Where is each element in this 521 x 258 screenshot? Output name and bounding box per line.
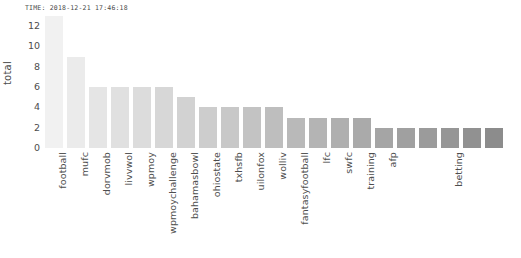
bar[interactable] bbox=[111, 87, 129, 148]
x-tick-label: wpmoychallenge bbox=[168, 152, 178, 234]
bar[interactable] bbox=[133, 87, 151, 148]
bar-chart: total 024681012 footballmufcdorvmoblivvw… bbox=[0, 0, 521, 258]
x-tick-label: dorvmob bbox=[102, 152, 112, 195]
x-tick-label: fantasyfootball bbox=[300, 152, 310, 225]
y-tick-label: 6 bbox=[26, 82, 40, 92]
y-tick-label: 2 bbox=[26, 123, 40, 133]
x-tick-label: training bbox=[366, 152, 376, 190]
bar[interactable] bbox=[243, 107, 261, 148]
bar[interactable] bbox=[463, 128, 481, 148]
x-tick-label: afp bbox=[388, 152, 398, 168]
bar[interactable] bbox=[397, 128, 415, 148]
x-tick-label: wolliv bbox=[278, 152, 288, 180]
bar[interactable] bbox=[221, 107, 239, 148]
bar[interactable] bbox=[199, 107, 217, 148]
bar[interactable] bbox=[265, 107, 283, 148]
x-tick-label: uilonfox bbox=[256, 152, 266, 190]
x-tick-label: football bbox=[58, 152, 68, 189]
bars-container: footballmufcdorvmoblivvwolwpmoywpmoychal… bbox=[45, 0, 505, 258]
bar[interactable] bbox=[309, 118, 327, 149]
y-tick-label: 12 bbox=[26, 21, 40, 31]
x-tick-label: lfc bbox=[322, 152, 332, 164]
y-tick-label: 10 bbox=[26, 42, 40, 52]
x-tick-label: bahamasbowl bbox=[190, 152, 200, 219]
x-tick-label: swfc bbox=[344, 152, 354, 174]
bar[interactable] bbox=[177, 97, 195, 148]
x-tick-label: betting bbox=[454, 152, 464, 187]
bar[interactable] bbox=[45, 16, 63, 148]
bar[interactable] bbox=[353, 118, 371, 149]
y-axis-label: total bbox=[2, 61, 13, 85]
y-tick-label: 0 bbox=[26, 143, 40, 153]
x-tick-label: ohiostate bbox=[212, 152, 222, 197]
bar[interactable] bbox=[485, 128, 503, 148]
y-tick-label: 4 bbox=[26, 103, 40, 113]
bar[interactable] bbox=[89, 87, 107, 148]
x-tick-label: wpmoy bbox=[146, 152, 156, 187]
bar[interactable] bbox=[419, 128, 437, 148]
bar[interactable] bbox=[287, 118, 305, 149]
bar[interactable] bbox=[155, 87, 173, 148]
bar[interactable] bbox=[441, 128, 459, 148]
y-tick-label: 8 bbox=[26, 62, 40, 72]
x-tick-label: livvwol bbox=[124, 152, 134, 185]
y-axis-ticks: 024681012 bbox=[26, 0, 40, 258]
bar[interactable] bbox=[331, 118, 349, 149]
bar[interactable] bbox=[375, 128, 393, 148]
x-tick-label: txhsfb bbox=[234, 152, 244, 182]
x-tick-label: mufc bbox=[80, 152, 90, 176]
bar[interactable] bbox=[67, 57, 85, 149]
